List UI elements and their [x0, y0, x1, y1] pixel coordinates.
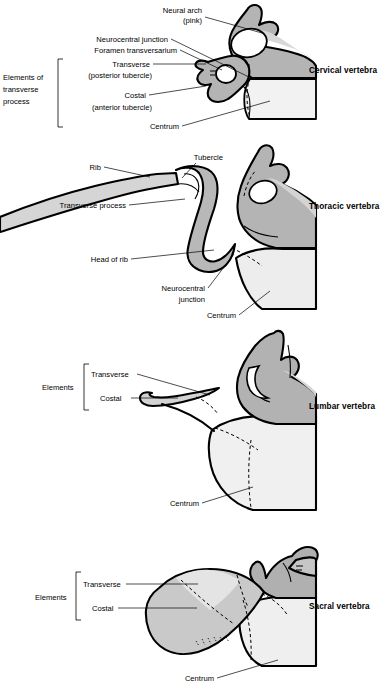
cervical-centrum-shape: [244, 79, 316, 119]
label-lumbar-elements: Elements: [42, 383, 74, 392]
label-neural-arch-line1: Neural arch: [163, 6, 202, 15]
label-sacral-costal: Costal: [92, 604, 114, 613]
label-sacral-transverse: Transverse: [83, 580, 121, 589]
label-lumbar-centrum: Centrum: [170, 499, 199, 508]
panel-title-cervical: Cervical vertebra: [309, 66, 377, 75]
label-foramen-transversarium: Foramen transversarium: [94, 46, 177, 55]
vertebral-elements-figure: Neural arch (pink) Neurocentral junction…: [0, 0, 391, 699]
cervical-foramen-transversarium: [216, 65, 236, 83]
label-lumbar-transverse: Transverse: [91, 370, 129, 379]
label-elements-of-line2: transverse: [3, 85, 38, 94]
label-elements-of-line3: process: [3, 97, 30, 106]
label-transverse-sub: (posterior tubercle): [88, 71, 152, 80]
label-transverse-process: Transverse process: [60, 201, 127, 210]
panel-title-lumbar: Lumbar vertebra: [309, 402, 375, 411]
label-costal-sub: (anterior tubercle): [92, 103, 152, 112]
panel-title-thoracic: Thoracic vertebra: [309, 202, 380, 211]
label-transverse: Transverse: [112, 60, 150, 69]
label-centrum-thoracic: Centrum: [207, 311, 236, 320]
label-neural-arch-line2: (pink): [183, 16, 202, 25]
label-sacral-elements: Elements: [35, 593, 67, 602]
label-neurocentral-line1: Neurocentral: [162, 284, 206, 293]
label-centrum: Centrum: [150, 122, 179, 131]
label-lumbar-costal: Costal: [100, 394, 122, 403]
label-tubercle: Tubercle: [194, 153, 223, 162]
label-neurocentral-line2: junction: [178, 295, 205, 304]
label-costal: Costal: [124, 91, 146, 100]
label-sacral-centrum: Centrum: [185, 674, 214, 683]
label-rib: Rib: [90, 163, 101, 172]
label-head-of-rib: Head of rib: [91, 255, 128, 264]
label-elements-of-line1: Elements of: [3, 73, 44, 82]
label-neurocentral-junction: Neurocentral junction: [96, 35, 168, 44]
panel-title-sacral: Sacral vertebra: [309, 602, 370, 611]
